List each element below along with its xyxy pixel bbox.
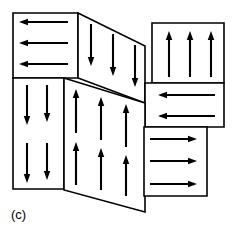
domain-structure-figure: (c) [0,0,234,236]
bottom-left-region [13,78,64,189]
domain-diagram-canvas: (c) [0,0,234,236]
middle-right-region [145,83,224,127]
top-right-region [152,23,224,83]
panel-caption: (c) [11,207,26,222]
